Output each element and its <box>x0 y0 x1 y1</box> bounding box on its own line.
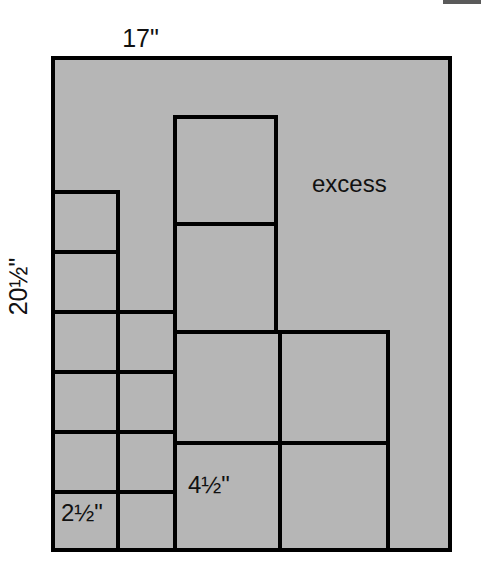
sheet-width-text: 17" <box>122 26 159 51</box>
sheet-cutting-diagram <box>0 0 481 571</box>
narrow-piece-width-label: 2½" <box>61 501 103 525</box>
excess-region-label: excess <box>312 172 387 196</box>
wide-piece-width-label: 4½" <box>188 473 230 497</box>
sheet-height-text: 20½" <box>4 258 32 316</box>
sheet-width-label: 17" <box>0 26 481 51</box>
sheet-rectangle <box>53 58 450 550</box>
diagram-canvas: 17" 20½" excess 2½" 4½" <box>0 0 481 571</box>
sheet-height-label: 20½" <box>6 212 31 362</box>
